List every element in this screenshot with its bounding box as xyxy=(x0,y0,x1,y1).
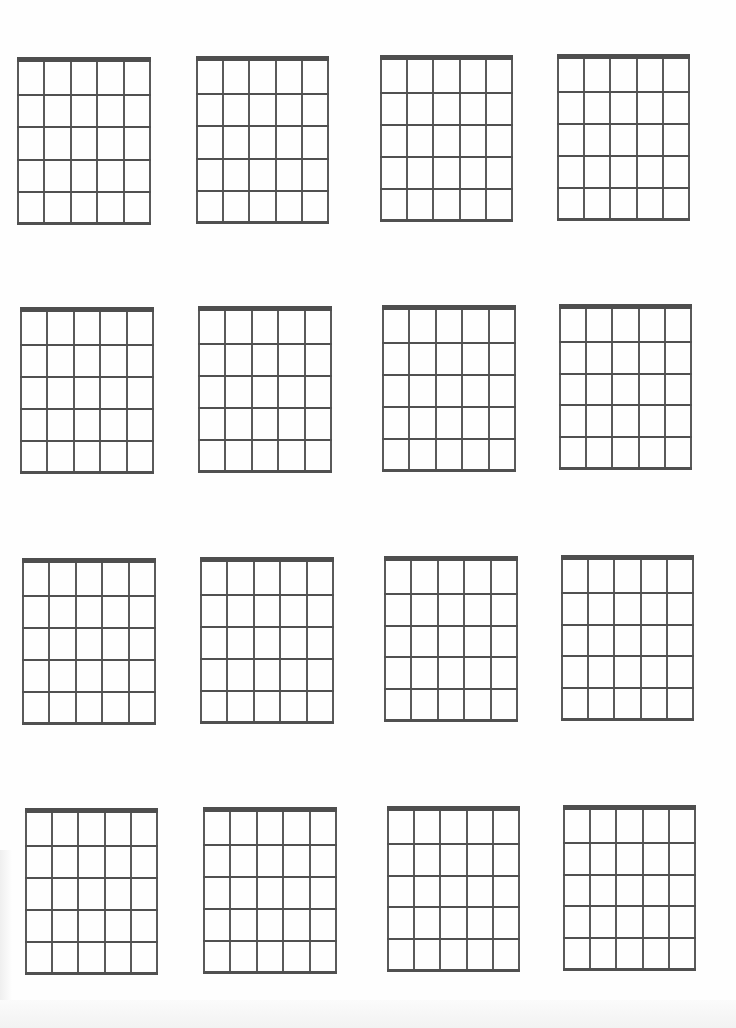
fret-line xyxy=(380,156,513,158)
string-line xyxy=(585,309,587,470)
fret-line xyxy=(17,126,151,128)
chord-diagram-r3-c3 xyxy=(384,556,518,722)
chord-diagram-r1-c2 xyxy=(196,56,329,224)
fret-line xyxy=(25,972,158,975)
fret-line xyxy=(198,439,332,441)
fret-line xyxy=(557,123,690,125)
string-line xyxy=(609,59,611,221)
string-line xyxy=(463,561,465,722)
string-line xyxy=(126,312,128,474)
string-line xyxy=(253,562,255,724)
fret-line xyxy=(200,626,334,628)
chord-diagram-r2-c4 xyxy=(559,304,692,470)
string-line xyxy=(279,562,281,724)
string-line xyxy=(229,812,231,974)
fret-line xyxy=(557,155,690,157)
string-line xyxy=(75,563,77,725)
string-line xyxy=(226,562,228,724)
fret-line xyxy=(563,937,696,939)
string-line xyxy=(256,812,258,974)
chord-diagram-r3-c2 xyxy=(200,557,334,724)
string-line xyxy=(282,812,284,974)
string-line xyxy=(583,59,585,221)
string-line xyxy=(488,310,490,472)
fret-line xyxy=(382,406,516,408)
fret-line xyxy=(200,690,334,692)
string-line xyxy=(439,811,441,972)
fret-line xyxy=(559,341,692,343)
fret-line xyxy=(20,376,154,378)
string-line xyxy=(511,60,513,222)
fret-line xyxy=(17,159,151,161)
chord-diagram-r2-c3 xyxy=(382,305,516,472)
nut-bar xyxy=(384,556,518,561)
fret-line xyxy=(387,938,520,940)
string-line xyxy=(668,810,670,971)
string-line xyxy=(384,561,386,722)
fret-line xyxy=(200,658,334,660)
string-line xyxy=(152,312,154,474)
fret-line xyxy=(203,908,337,910)
fret-line xyxy=(17,222,151,225)
blank-chord-chart-page xyxy=(0,0,736,1028)
fret-line xyxy=(561,718,694,721)
fret-line xyxy=(380,92,513,94)
fret-line xyxy=(559,373,692,375)
string-line xyxy=(306,562,308,724)
chord-diagram-r4-c2 xyxy=(203,807,337,974)
string-line xyxy=(301,61,303,224)
fret-line xyxy=(557,187,690,189)
string-line xyxy=(101,563,103,725)
fret-line xyxy=(382,374,516,376)
nut-bar xyxy=(200,557,334,562)
string-line xyxy=(130,813,132,975)
string-line xyxy=(77,813,79,975)
nut-bar xyxy=(198,306,332,311)
fret-line xyxy=(196,93,329,95)
string-line xyxy=(335,812,337,974)
string-line xyxy=(410,561,412,722)
string-line xyxy=(48,563,50,725)
chord-diagram-r2-c2 xyxy=(198,306,332,473)
fret-line xyxy=(20,471,154,474)
string-line xyxy=(332,562,334,724)
string-line xyxy=(408,310,410,472)
string-line xyxy=(46,312,48,474)
string-line xyxy=(222,61,224,224)
fret-line xyxy=(561,592,694,594)
fret-line xyxy=(22,595,156,597)
string-line xyxy=(200,562,202,724)
fret-line xyxy=(387,875,520,877)
string-line xyxy=(587,560,589,721)
chord-diagram-r4-c4 xyxy=(563,805,696,971)
fret-line xyxy=(563,968,696,971)
fret-line xyxy=(25,877,158,879)
string-line xyxy=(20,312,22,474)
string-line xyxy=(559,309,561,470)
nut-bar xyxy=(561,555,694,560)
string-line xyxy=(406,60,408,222)
string-line xyxy=(413,811,415,972)
string-line xyxy=(382,310,384,472)
fret-line xyxy=(196,221,329,224)
fret-line xyxy=(20,440,154,442)
string-line xyxy=(662,59,664,221)
fret-line xyxy=(196,158,329,160)
fret-line xyxy=(561,624,694,626)
fret-line xyxy=(196,125,329,127)
string-line xyxy=(640,560,642,721)
string-line xyxy=(437,561,439,722)
fret-line xyxy=(382,469,516,472)
fret-line xyxy=(563,842,696,844)
fret-line xyxy=(387,969,520,972)
fret-line xyxy=(22,722,156,725)
fret-line xyxy=(20,344,154,346)
string-line xyxy=(73,312,75,474)
string-line xyxy=(70,62,72,225)
fret-line xyxy=(384,625,518,627)
string-line xyxy=(589,810,591,971)
string-line xyxy=(638,309,640,470)
fret-line xyxy=(561,687,694,689)
fret-line xyxy=(203,971,337,974)
string-line xyxy=(248,61,250,224)
